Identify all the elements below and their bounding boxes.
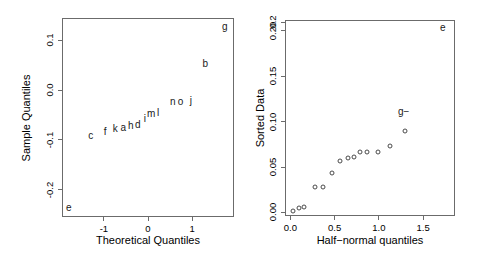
halfnormal-y-axis-title: Sorted Data: [255, 89, 266, 148]
y-tick-label: 0.0: [45, 84, 55, 97]
data-point-marker: [375, 149, 380, 154]
y-tick-mark: [58, 90, 62, 91]
y-tick-mark: [281, 76, 285, 77]
data-point-marker: [302, 204, 307, 209]
y-tick-label: 0.10: [268, 112, 278, 131]
x-tick-label: 1.5: [417, 223, 430, 233]
data-point-marker: [365, 149, 370, 154]
y-tick-mark: [58, 189, 62, 190]
data-point-label: j: [190, 96, 192, 106]
data-point-marker: [321, 184, 326, 189]
y-tick-mark: [281, 121, 285, 122]
y-tick-label: 0.2: [268, 15, 278, 28]
y-tick-mark: [281, 167, 285, 168]
figure-canvas: Sample Quantiles Theoretical Quantiles -…: [0, 0, 493, 270]
x-tick-mark: [103, 217, 104, 221]
x-tick-label: 0.5: [328, 223, 341, 233]
data-point-marker: [337, 158, 342, 163]
data-point-marker: [290, 208, 295, 213]
data-point-label: o: [178, 97, 184, 107]
data-point-label: d: [135, 120, 141, 130]
halfnormal-plot-panel: Sorted Data Half−normal quantiles 0.00.5…: [246, 0, 493, 270]
x-tick-mark: [378, 216, 379, 220]
data-point-label: f: [104, 127, 107, 137]
x-tick-mark: [290, 216, 291, 220]
x-tick-label: 1.0: [372, 223, 385, 233]
data-point-marker: [388, 144, 393, 149]
data-point-label: a: [121, 123, 127, 133]
y-tick-mark: [58, 40, 62, 41]
data-point-label: k: [113, 124, 118, 134]
y-tick-mark: [58, 139, 62, 140]
halfnormal-x-axis-title: Half−normal quantiles: [317, 235, 424, 246]
y-tick-mark: [281, 212, 285, 213]
qq-annotation-e: e: [66, 203, 72, 213]
data-point-marker: [313, 184, 318, 189]
halfnormal-plot-frame: [285, 20, 455, 216]
data-point-marker: [358, 150, 363, 155]
data-point-label: h: [128, 121, 134, 131]
qq-y-axis-title: Sample Quantiles: [21, 74, 32, 161]
y-tick-mark: [281, 22, 285, 23]
y-tick-label: 0.1: [45, 34, 55, 47]
qq-plot-panel: Sample Quantiles Theoretical Quantiles -…: [0, 0, 247, 270]
x-tick-label: -1: [100, 224, 108, 234]
data-point-label: l: [157, 108, 159, 118]
data-point-marker: [345, 155, 350, 160]
data-point-label: m: [147, 109, 155, 119]
y-tick-label: -0.1: [45, 132, 55, 148]
x-tick-label: 0.0: [284, 223, 297, 233]
x-tick-mark: [192, 217, 193, 221]
data-point-marker: [352, 155, 357, 160]
y-tick-label: -0.2: [45, 181, 55, 197]
data-point-marker: [403, 128, 408, 133]
x-tick-mark: [334, 216, 335, 220]
y-tick-mark: [281, 30, 285, 31]
x-tick-mark: [423, 216, 424, 220]
x-tick-mark: [148, 217, 149, 221]
y-tick-label: 0.00: [268, 203, 278, 222]
data-point-label: c: [88, 131, 93, 141]
data-point-label: n: [170, 97, 176, 107]
x-tick-label: 1: [189, 224, 194, 234]
halfnormal-annotation-e: e: [440, 23, 446, 33]
data-point-marker: [297, 205, 302, 210]
halfnormal-annotation-g: g−: [398, 107, 409, 117]
data-point-marker: [329, 171, 334, 176]
y-tick-label: 0.15: [268, 67, 278, 86]
x-tick-label: 0: [145, 224, 150, 234]
y-tick-label: 0.05: [268, 158, 278, 177]
qq-x-axis-title: Theoretical Quantiles: [96, 235, 200, 246]
data-point-label: i: [144, 114, 146, 124]
qq-annotation-g: g: [222, 22, 228, 32]
data-point-label: b: [203, 59, 209, 69]
